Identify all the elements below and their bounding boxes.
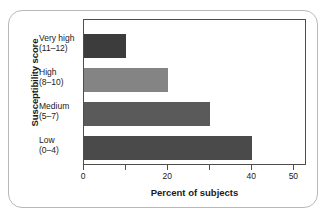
x-tick [209, 165, 210, 170]
x-tick-label: 20 [162, 171, 171, 181]
category-name: Low [39, 135, 84, 145]
x-tick [125, 165, 126, 170]
category-label: Medium (5–7) [39, 101, 84, 121]
category-name: Very high [39, 33, 84, 43]
plot-area [83, 19, 306, 165]
y-axis-title: Susceptibility score [29, 23, 40, 143]
category-range: (8–10) [39, 77, 84, 87]
x-tick [167, 165, 168, 170]
category-range: (0–4) [39, 145, 84, 155]
x-tick [293, 165, 294, 170]
bar-very-high [84, 34, 126, 58]
x-tick-label: 40 [247, 171, 256, 181]
x-tick [83, 165, 84, 170]
figure-card: Susceptibility score Very high (11–12) H… [8, 10, 318, 208]
category-range: (11–12) [39, 43, 84, 53]
x-tick-label: 50 [289, 171, 298, 181]
x-axis-tick-labels: 0204050 [83, 171, 306, 185]
x-tick [251, 165, 252, 170]
category-axis-labels: Very high (11–12) High (8–10) Medium (5–… [39, 29, 84, 165]
bar-medium [84, 102, 210, 126]
category-label: Low (0–4) [39, 135, 84, 155]
category-label: Very high (11–12) [39, 33, 84, 53]
x-axis-title: Percent of subjects [83, 187, 306, 198]
bar-low [84, 136, 252, 160]
category-name: High [39, 67, 84, 77]
category-name: Medium [39, 101, 84, 111]
category-label: High (8–10) [39, 67, 84, 87]
category-range: (5–7) [39, 111, 84, 121]
bar-high [84, 68, 168, 92]
x-tick-label: 0 [81, 171, 86, 181]
